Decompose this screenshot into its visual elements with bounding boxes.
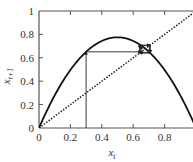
axis-ticks: 00.20.40.60.800.20.40.60.81 [20,5,172,143]
x-tick-label: 0.8 [158,131,172,143]
x-tick-label: 0.6 [126,131,140,143]
plot-series [39,11,193,128]
y-tick-label: 0.6 [20,52,34,64]
cobweb-chart: 00.20.40.60.800.20.40.60.81 xt xt+1 [0,0,193,162]
y-tick-label: 1 [29,5,35,17]
y-tick-label: 0 [29,122,35,134]
logistic-curve [39,37,193,128]
identity-line [39,11,193,128]
y-tick-label: 0.2 [20,99,34,111]
y-tick-label: 0.8 [20,28,34,40]
plot-frame [39,11,193,128]
y-tick-label: 0.4 [20,75,34,87]
x-tick-label: 0 [36,131,42,143]
x-tick-label: 0.2 [64,131,78,143]
y-axis-label: xt+1 [0,68,15,86]
x-tick-label: 0.4 [95,131,109,143]
x-axis-label: xt [107,146,116,161]
